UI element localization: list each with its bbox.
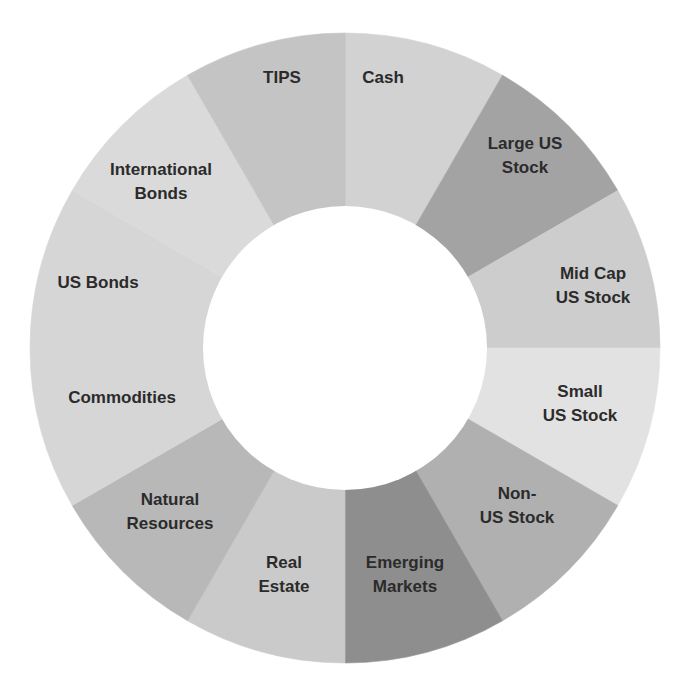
segment-label: TIPS: [263, 68, 301, 87]
segment-label: US Bonds: [57, 273, 138, 292]
segment-label: Cash: [362, 68, 404, 87]
donut-chart: CashLarge USStockMid CapUS StockSmallUS …: [0, 0, 690, 698]
segment-label: Commodities: [68, 388, 176, 407]
donut-hole: [203, 206, 487, 490]
donut-chart-canvas: CashLarge USStockMid CapUS StockSmallUS …: [0, 0, 690, 698]
